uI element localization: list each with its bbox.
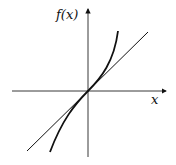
- function-plot: f(x) x: [0, 0, 176, 165]
- y-axis-label: f(x): [55, 7, 78, 22]
- curve: [50, 31, 118, 152]
- x-axis-label: x: [151, 92, 159, 107]
